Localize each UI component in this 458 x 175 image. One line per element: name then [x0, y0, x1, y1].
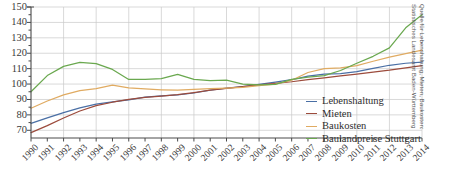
price-index-line-chart: 708090100110120130140150 199019911992199…	[0, 0, 458, 175]
source-note: Quelle für Lebenshaltung, Mieten, Baukos…	[406, 4, 426, 144]
legend-item-label: Baukosten	[322, 121, 366, 132]
legend-color-swatch	[306, 126, 317, 127]
legend-item-label: Mieten	[322, 109, 352, 120]
legend-color-swatch	[306, 113, 317, 114]
x-tick-label: 2014	[412, 143, 432, 163]
x-axis-tick-labels: 1990199119921993199419951996199719981999…	[0, 0, 458, 175]
legend-item-label: Lebenshaltung	[322, 96, 384, 107]
legend-color-swatch	[306, 101, 317, 102]
legend-color-swatch	[306, 138, 317, 139]
